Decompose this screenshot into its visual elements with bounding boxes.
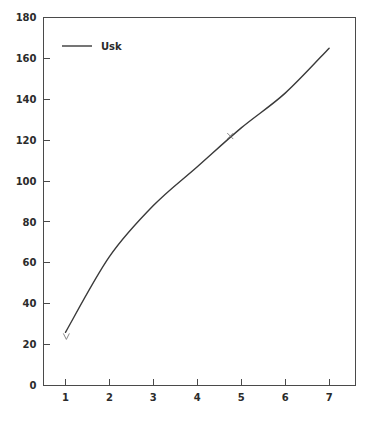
axis-frame — [44, 18, 356, 386]
y-tick-label: 140 — [16, 94, 37, 105]
line-chart: 020406080100120140160180 1234567 Usk — [0, 0, 368, 423]
plot-frame — [44, 18, 356, 386]
series-line-usk — [65, 48, 329, 332]
y-tick-label: 40 — [23, 298, 37, 309]
marker-v — [63, 333, 69, 339]
x-tick-label: 3 — [150, 392, 157, 403]
y-tick-label: 20 — [23, 339, 37, 350]
x-tick-label: 6 — [282, 392, 289, 403]
x-tick-label: 1 — [62, 392, 69, 403]
y-tick-label: 180 — [16, 12, 37, 23]
y-tick-label: 100 — [16, 176, 37, 187]
chart-legend: Usk — [62, 41, 122, 52]
x-tick-label: 2 — [106, 392, 113, 403]
y-tick-label: 120 — [16, 135, 37, 146]
data-point-markers — [63, 133, 233, 339]
chart-container: 020406080100120140160180 1234567 Usk — [0, 0, 368, 423]
x-tick-label: 5 — [238, 392, 245, 403]
x-axis: 1234567 — [62, 379, 333, 403]
x-tick-label: 4 — [194, 392, 201, 403]
y-tick-label: 80 — [23, 217, 37, 228]
y-tick-label: 0 — [30, 380, 37, 391]
y-tick-label: 60 — [23, 257, 37, 268]
legend-label-usk: Usk — [101, 41, 122, 52]
x-tick-label: 7 — [326, 392, 333, 403]
y-axis: 020406080100120140160180 — [16, 12, 50, 391]
y-tick-label: 160 — [16, 53, 37, 64]
series-group — [65, 48, 329, 332]
